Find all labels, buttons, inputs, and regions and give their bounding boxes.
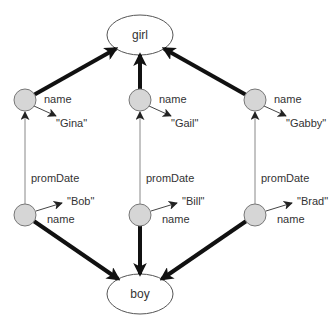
promdate-label-0: promDate [31,172,79,184]
edges-layer [25,49,292,279]
literal-gina: "Gina" [56,117,87,129]
name-label-bill: name [162,213,190,225]
type-edge-gina-to-girl [35,49,116,95]
name-edge-bill [151,203,177,211]
literal-gabby: "Gabby" [286,117,326,129]
instance-node-bill [129,204,151,226]
name-label-bob: name [47,213,75,225]
instance-node-bob [14,204,36,226]
name-edge-bob [36,203,62,211]
rdf-graph-diagram: girl boy name"Gina"promDate"Bob"namename… [0,0,332,329]
instance-node-brad [244,204,266,226]
boy-label: boy [130,287,149,301]
name-edge-gina [34,106,56,116]
name-label-gabby: name [274,93,302,105]
literal-gail: "Gail" [171,117,198,129]
name-edge-brad [266,203,292,211]
literal-brad: "Brad" [297,195,328,207]
type-edge-gabby-to-girl [164,49,245,95]
name-edge-gabby [264,106,286,116]
instance-node-gabby [244,89,266,111]
girl-label: girl [132,28,148,42]
instance-node-gail [129,89,151,111]
name-label-brad: name [277,213,305,225]
type-edge-brad-to-boy [162,221,246,279]
name-label-gina: name [44,93,72,105]
literal-bob: "Bob" [67,195,94,207]
type-edge-bob-to-boy [34,221,118,279]
instance-node-gina [14,89,36,111]
name-edge-gail [149,106,171,116]
promdate-label-1: promDate [146,172,194,184]
name-label-gail: name [159,93,187,105]
promdate-label-2: promDate [261,172,309,184]
class-node-girl: girl [107,15,173,55]
literal-bill: "Bill" [182,195,205,207]
